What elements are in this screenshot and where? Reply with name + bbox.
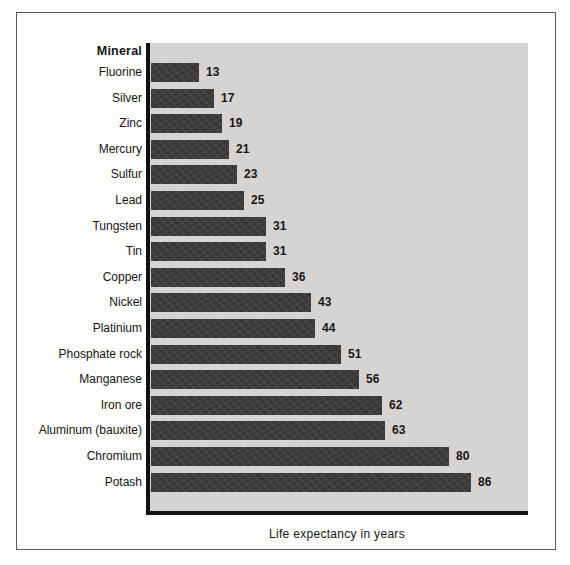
bar <box>151 89 214 108</box>
bar <box>151 473 471 492</box>
value-label: 80 <box>456 447 469 466</box>
bar <box>151 191 244 210</box>
value-label: 23 <box>244 165 257 184</box>
bar <box>151 293 311 312</box>
category-label: Fluorine <box>0 63 142 82</box>
value-label: 17 <box>221 89 234 108</box>
x-axis-label: Life expectancy in years <box>146 527 528 541</box>
value-label: 31 <box>273 242 286 261</box>
category-label: Lead <box>0 191 142 210</box>
bar <box>151 345 341 364</box>
bar <box>151 319 315 338</box>
category-label: Phosphate rock <box>0 345 142 364</box>
bar <box>151 165 237 184</box>
bar <box>151 396 382 415</box>
category-label: Copper <box>0 268 142 287</box>
value-label: 13 <box>206 63 219 82</box>
bar <box>151 114 222 133</box>
bar <box>151 63 199 82</box>
category-label: Tungsten <box>0 217 142 236</box>
page: Mineral Fluorine13Silver17Zinc19Mercury2… <box>0 0 570 565</box>
value-label: 86 <box>478 473 491 492</box>
category-label: Silver <box>0 89 142 108</box>
value-label: 36 <box>292 268 305 287</box>
value-label: 19 <box>229 114 242 133</box>
category-label: Sulfur <box>0 165 142 184</box>
category-label: Tin <box>0 242 142 261</box>
bar <box>151 268 285 287</box>
bar <box>151 370 359 389</box>
bar <box>151 217 266 236</box>
category-label: Nickel <box>0 293 142 312</box>
x-axis-line <box>146 511 528 515</box>
bar <box>151 447 449 466</box>
bar <box>151 421 385 440</box>
category-label: Platinium <box>0 319 142 338</box>
category-label: Mercury <box>0 140 142 159</box>
value-label: 62 <box>389 396 402 415</box>
value-label: 21 <box>236 140 249 159</box>
category-label: Zinc <box>0 114 142 133</box>
value-label: 51 <box>348 345 361 364</box>
value-label: 56 <box>366 370 379 389</box>
value-label: 31 <box>273 217 286 236</box>
value-label: 63 <box>392 421 405 440</box>
y-axis-line <box>146 43 150 515</box>
bar <box>151 242 266 261</box>
category-label: Iron ore <box>0 396 142 415</box>
column-header: Mineral <box>0 44 142 58</box>
bar <box>151 140 229 159</box>
category-label: Chromium <box>0 447 142 466</box>
value-label: 43 <box>318 293 331 312</box>
value-label: 25 <box>251 191 264 210</box>
category-label: Aluminum (bauxite) <box>0 421 142 440</box>
category-label: Potash <box>0 473 142 492</box>
category-label: Manganese <box>0 370 142 389</box>
value-label: 44 <box>322 319 335 338</box>
